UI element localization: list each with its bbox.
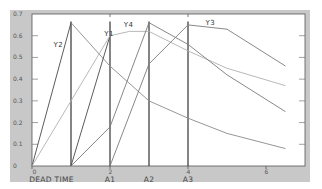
series-label-y1: Y1 [103,30,114,38]
chart: 00.10.20.30.40.50.60.70246 Y2Y1Y4Y3 DEAD… [0,0,322,189]
series-label-y4: Y4 [123,21,134,29]
y-tick-label: 0.1 [13,140,23,147]
category-label: A2 [144,175,155,184]
x-tick-label: 4 [187,168,191,175]
category-label: A1 [105,175,116,184]
series-label-y2: Y2 [52,41,63,49]
x-tick-label: 0 [33,168,37,175]
y-tick-label: 0.4 [13,75,23,82]
y-tick-label: 0.6 [13,32,23,39]
y-tick-label: 0.7 [13,10,23,17]
y-tick-label: 0.3 [13,97,23,104]
x-tick-label: 6 [265,168,269,175]
category-label: DEAD TIME [29,175,74,184]
y-tick-label: 0.5 [13,53,23,60]
x-tick-label: 2 [109,168,113,175]
y-tick-label: 0.2 [13,119,23,126]
series-label-y3: Y3 [205,19,216,27]
category-label: A3 [183,175,194,184]
y-tick-label: 0 [13,162,17,169]
